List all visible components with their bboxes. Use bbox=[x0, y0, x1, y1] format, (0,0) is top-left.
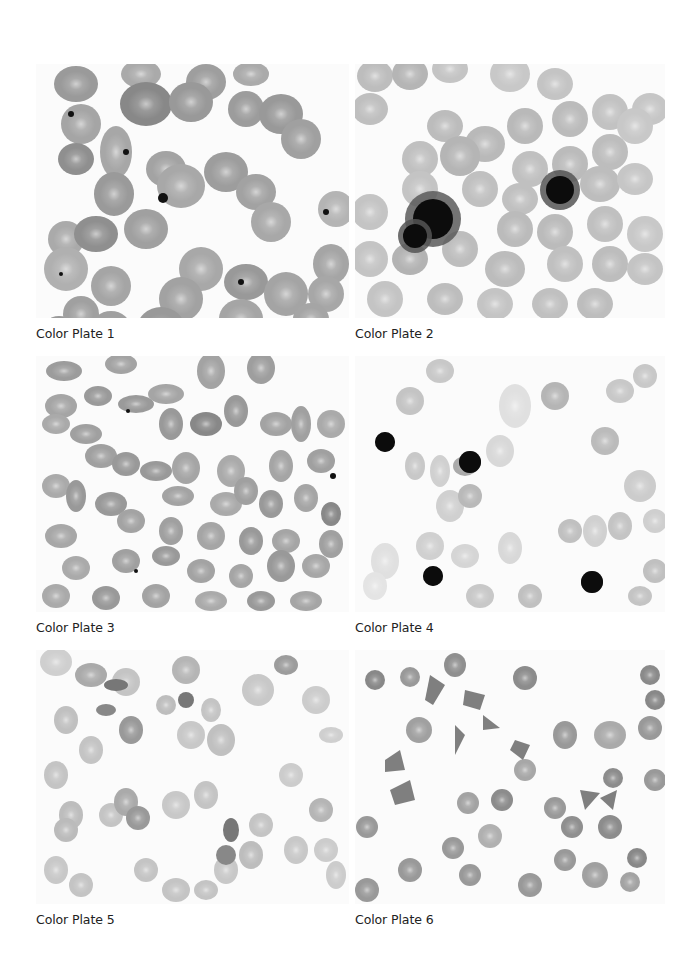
nucleated-cell bbox=[403, 224, 427, 248]
fragmented-cell bbox=[223, 818, 239, 842]
schistocyte bbox=[385, 750, 405, 772]
inclusion-body bbox=[59, 272, 63, 276]
inclusion-body bbox=[123, 149, 129, 155]
nucleated-cell bbox=[375, 432, 395, 452]
schistocyte bbox=[600, 790, 617, 810]
blood-smear-micrograph bbox=[355, 356, 665, 612]
fragmented-cell bbox=[216, 845, 236, 865]
nucleated-cell bbox=[546, 176, 574, 204]
color-plate-3: Color Plate 3 bbox=[36, 356, 349, 638]
fragmented-cell bbox=[178, 692, 194, 708]
color-plate-2: Color Plate 2 bbox=[355, 64, 665, 344]
plate-caption: Color Plate 3 bbox=[36, 620, 115, 635]
schistocyte bbox=[580, 790, 600, 810]
schistocyte bbox=[455, 725, 465, 755]
blood-smear-micrograph bbox=[355, 650, 665, 904]
plate-caption: Color Plate 4 bbox=[355, 620, 434, 635]
blood-smear-micrograph bbox=[36, 650, 349, 904]
inclusion-body bbox=[330, 473, 336, 479]
fragmented-cell bbox=[96, 704, 116, 716]
nucleated-cell bbox=[581, 571, 603, 593]
inclusion-body bbox=[238, 279, 244, 285]
plate-caption: Color Plate 6 bbox=[355, 912, 434, 927]
inclusion-body bbox=[323, 209, 329, 215]
color-plate-5: Color Plate 5 bbox=[36, 650, 349, 930]
schistocyte bbox=[425, 675, 445, 705]
blood-smear-micrograph bbox=[355, 64, 665, 318]
inclusion-body bbox=[134, 569, 138, 573]
schistocyte bbox=[510, 740, 530, 760]
inclusion-body bbox=[158, 193, 168, 203]
fragmented-cell bbox=[104, 679, 128, 691]
schistocyte bbox=[483, 715, 500, 730]
blood-smear-micrograph bbox=[36, 356, 349, 612]
schistocyte bbox=[463, 690, 485, 710]
inclusion-body bbox=[126, 409, 130, 413]
nucleated-cell bbox=[423, 566, 443, 586]
color-plate-1: Color Plate 1 bbox=[36, 64, 349, 344]
schistocyte bbox=[390, 780, 415, 805]
color-plate-6: Color Plate 6 bbox=[355, 650, 665, 930]
blood-smear-micrograph bbox=[36, 64, 349, 318]
nucleated-cell bbox=[459, 451, 481, 473]
plate-caption: Color Plate 2 bbox=[355, 326, 434, 341]
color-plate-4: Color Plate 4 bbox=[355, 356, 665, 638]
inclusion-body bbox=[68, 111, 74, 117]
plate-caption: Color Plate 1 bbox=[36, 326, 115, 341]
plate-caption: Color Plate 5 bbox=[36, 912, 115, 927]
